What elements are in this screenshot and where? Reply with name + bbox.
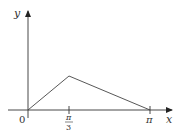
tick-label-pi: π: [145, 114, 153, 125]
function-graph-diagram: y x 0 π 3 π: [0, 0, 184, 138]
x-axis-label: x: [166, 113, 173, 126]
y-axis-label: y: [13, 7, 21, 20]
graph-svg: y x 0 π 3 π: [0, 0, 184, 138]
tick-label-pi-over-3-numerator: π: [65, 113, 72, 122]
function-curve: [28, 76, 150, 110]
origin-label: 0: [19, 114, 25, 125]
tick-label-pi-over-3-denominator: 3: [66, 123, 71, 132]
